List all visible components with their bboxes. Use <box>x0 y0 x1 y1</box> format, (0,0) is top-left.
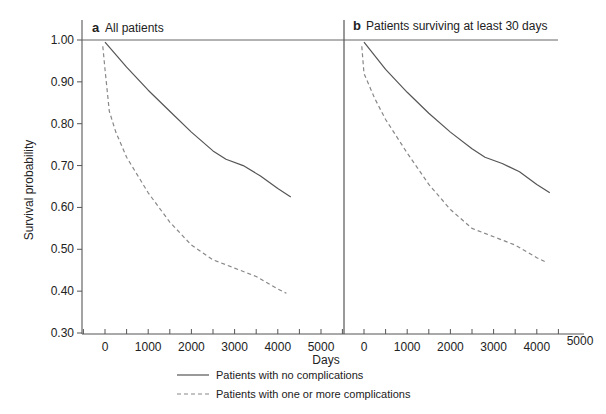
legend: Patients with no complications Patients … <box>177 369 411 400</box>
curve-no-complications <box>364 42 550 193</box>
panel-a-series <box>103 42 291 293</box>
x-tick-label: 0 <box>361 340 368 354</box>
x-tick-label: 3000 <box>221 340 248 354</box>
legend-label-with-complications: Patients with one or more complications <box>216 388 411 400</box>
legend-label-no-complications: Patients with no complications <box>216 369 364 381</box>
y-tick-label: 0.50 <box>51 242 75 256</box>
panel-b-letter: b <box>353 18 361 33</box>
y-tick-label: 0.30 <box>51 326 75 340</box>
x-tick-label: 5000 <box>308 340 335 354</box>
y-axis-label: Survival probability <box>22 140 36 241</box>
x-tick-label: 2000 <box>437 340 464 354</box>
panel-a-letter: a <box>92 20 100 35</box>
axes: 1.000.900.800.700.600.500.400.30 0100020… <box>51 20 594 354</box>
y-ticks: 1.000.900.800.700.600.500.400.30 <box>51 33 82 340</box>
panel-b-series <box>362 42 550 262</box>
x-tick-label: 0 <box>102 340 109 354</box>
panel-a-title: All patients <box>105 21 164 35</box>
x-ticks-panel-b: 010002000300040005000 <box>342 329 593 354</box>
x-tick-label: 4000 <box>523 340 550 354</box>
y-tick-label: 1.00 <box>51 33 75 47</box>
curve-with-complications <box>103 46 287 293</box>
panel-b-title: Patients surviving at least 30 days <box>366 19 547 33</box>
y-tick-label: 0.80 <box>51 117 75 131</box>
x-axis-label: Days <box>312 353 339 367</box>
y-tick-label: 0.40 <box>51 284 75 298</box>
chart-svg: 1.000.900.800.700.600.500.400.30 0100020… <box>0 0 606 414</box>
y-tick-label: 0.70 <box>51 159 75 173</box>
curve-with-complications <box>362 46 546 261</box>
x-tick-label: 4000 <box>264 340 291 354</box>
x-tick-label: 1000 <box>394 340 421 354</box>
x-tick-label: 1000 <box>135 340 162 354</box>
survival-chart: 1.000.900.800.700.600.500.400.30 0100020… <box>0 0 606 414</box>
x-tick-label: 5000 <box>567 334 594 348</box>
x-tick-label: 3000 <box>480 340 507 354</box>
y-tick-label: 0.60 <box>51 200 75 214</box>
curve-no-complications <box>105 42 291 197</box>
y-tick-label: 0.90 <box>51 75 75 89</box>
x-tick-label: 2000 <box>178 340 205 354</box>
x-ticks-panel-a: 010002000300040005000 <box>83 329 334 354</box>
